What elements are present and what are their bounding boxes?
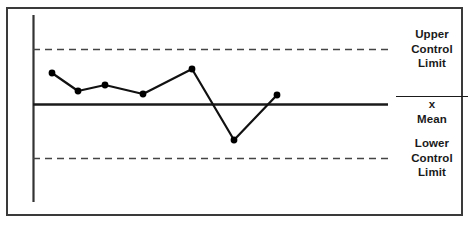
ucl-label-line-1: Upper xyxy=(396,27,468,42)
ucl-label-line-2: Control xyxy=(396,42,468,57)
lcl-label-line-3: Limit xyxy=(396,165,468,180)
lcl-label-line-2: Control xyxy=(396,151,468,166)
data-point xyxy=(274,92,281,99)
data-point xyxy=(49,70,56,77)
ucl-label-line-3: Limit xyxy=(396,56,468,71)
control-chart: Upper Control Limit x Mean Lower Control… xyxy=(0,0,473,225)
data-point xyxy=(102,82,109,89)
mean-label-text: x Mean xyxy=(396,97,468,126)
mean-word: Mean xyxy=(396,112,468,127)
upper-control-limit-label: Upper Control Limit xyxy=(396,27,468,71)
lower-control-limit-label: Lower Control Limit xyxy=(396,136,468,180)
mean-label: x Mean xyxy=(396,97,468,126)
lcl-label-line-1: Lower xyxy=(396,136,468,151)
chart-legend-labels: Upper Control Limit x Mean Lower Control… xyxy=(396,0,468,225)
data-point xyxy=(231,137,238,144)
data-point xyxy=(189,66,196,73)
data-point xyxy=(75,88,82,95)
data-point xyxy=(140,91,147,98)
x-bar-symbol: x xyxy=(396,97,468,112)
